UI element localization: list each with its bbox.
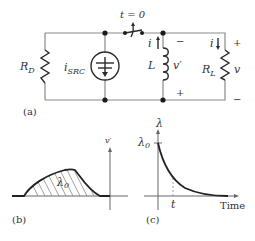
graph-b: λ0 v′ (b) xyxy=(12,136,128,225)
switch[interactable] xyxy=(123,22,144,37)
arrow-down-icon xyxy=(102,72,108,77)
node-top-right xyxy=(160,30,165,35)
panel-label-c: (c) xyxy=(146,214,160,225)
rl-current-label: i xyxy=(210,37,214,50)
rd-label: RD xyxy=(19,60,35,75)
circuit-a: RD iSRC t = 0 L v′ i − xyxy=(19,9,241,117)
node-top-left xyxy=(102,30,107,35)
inductor-current-label: i xyxy=(148,37,152,50)
panel-label-b: (b) xyxy=(12,214,26,225)
y-axis-label-c: λ xyxy=(155,117,163,130)
resistor-rl xyxy=(221,50,229,80)
inductor-bottom-sign: + xyxy=(176,87,184,98)
arrow-down-icon xyxy=(216,46,220,50)
lambda-decay-curve xyxy=(158,143,228,196)
lambda0-label: λ0 xyxy=(137,136,150,150)
circuit-diagram: RD iSRC t = 0 L v′ i − xyxy=(0,0,255,241)
y-axis-label-b: v′ xyxy=(105,136,112,145)
rl-bottom-sign: − xyxy=(233,94,241,105)
inductor-voltage-label: v′ xyxy=(173,59,182,72)
panel-label-a: (a) xyxy=(23,106,37,117)
lambda0-area-label: λ0 xyxy=(56,176,69,190)
graph-c: λ λ0 t Time (c) xyxy=(137,117,245,225)
bottom-wire xyxy=(45,80,225,100)
rl-top-sign: + xyxy=(233,37,241,48)
x-axis-arrow-icon xyxy=(234,194,239,198)
x-axis-label-c: Time xyxy=(220,200,245,211)
isrc-label: iSRC xyxy=(64,61,85,76)
arrow-up-icon xyxy=(156,36,160,40)
inductor-label: L xyxy=(147,59,155,72)
rl-voltage-label: v xyxy=(234,63,241,76)
switch-arrow-icon xyxy=(131,22,135,26)
resistor-rd xyxy=(41,50,49,83)
current-source xyxy=(91,52,119,80)
y-axis-arrow-icon xyxy=(108,147,112,152)
node-bottom-left xyxy=(102,97,107,102)
rl-label: RL xyxy=(201,63,216,78)
inductor-top-sign: − xyxy=(176,36,184,47)
node-bottom-right xyxy=(160,97,165,102)
inductor-l xyxy=(163,48,168,80)
switch-label: t = 0 xyxy=(120,9,146,20)
t-marker-label: t xyxy=(171,198,176,211)
